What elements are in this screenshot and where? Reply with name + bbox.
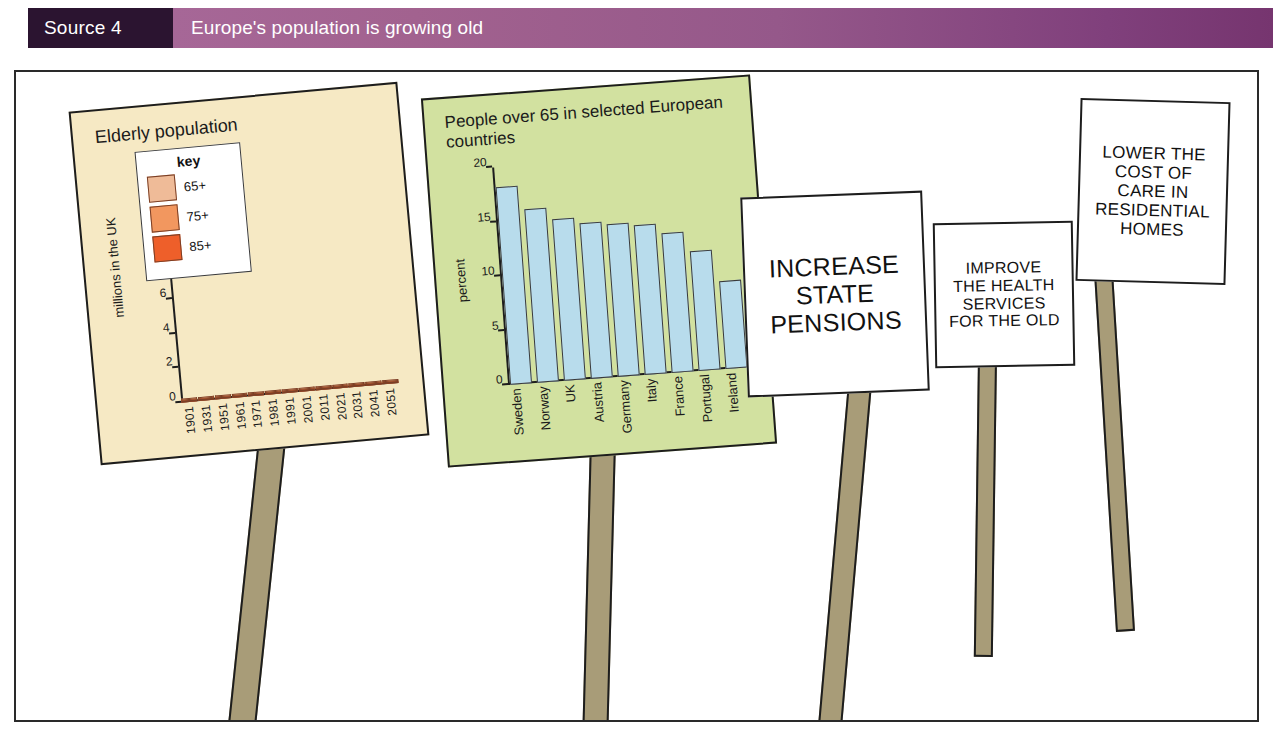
chart2-bar (690, 250, 721, 371)
placard-text-lower-cost-of-care: LOWER THE COST OF CARE IN RESIDENTIAL HO… (1094, 142, 1211, 240)
chart2-x-tick-label: Germany (616, 379, 644, 460)
chart2-y-tick-label: 15 (477, 209, 491, 224)
chart1-bar (349, 382, 365, 387)
chart2-y-tick-label: 0 (495, 372, 503, 386)
chart1-legend-entries: 65+75+85+ (138, 168, 249, 263)
chart1-legend-label: 65+ (183, 177, 206, 194)
chart1-bar-segment-85plus (349, 384, 365, 387)
chart1-y-tick-label: 4 (162, 320, 170, 335)
chart1-bar-segment-85plus (265, 392, 281, 395)
chart1-bar (265, 390, 281, 395)
chart2-x-tick-label: UK (562, 383, 590, 464)
header-banner: Source 4 Europe's population is growing … (28, 8, 1273, 48)
chart1-bar-segment-85plus (232, 395, 248, 398)
chart2-y-tick-label: 20 (473, 155, 487, 170)
placard-improve-health-services: IMPROVE THE HEALTH SERVICES FOR THE OLD (933, 221, 1076, 368)
placard-chart-people-over-65: People over 65 in selected European coun… (421, 74, 777, 467)
placard-text-increase-state-pensions: INCREASE STATE PENSIONS (768, 250, 903, 339)
chart1-bar (315, 385, 331, 390)
chart1-legend-swatch (147, 174, 177, 202)
chart1-bar (366, 380, 382, 385)
illustration-frame: Elderly population millions in the UK 02… (14, 70, 1259, 722)
chart1-y-tick-label: 0 (169, 389, 177, 404)
chart1-bar-segment-85plus (299, 389, 315, 392)
chart1-legend-label: 85+ (189, 237, 212, 254)
source-number-label: Source 4 (44, 17, 122, 39)
chart1-bar-segment-85plus (198, 398, 214, 401)
chart1-y-tick-label: 2 (165, 355, 173, 370)
chart1-bar (231, 393, 247, 398)
chart1-bar (198, 396, 214, 401)
chart1-bar-segment-85plus (332, 385, 348, 388)
source-title-banner: Europe's population is growing old (173, 8, 1273, 48)
chart1-bar (332, 383, 348, 388)
chart1-bar (298, 387, 314, 392)
source-number-box: Source 4 (28, 8, 173, 48)
chart1-title: Elderly population (94, 114, 238, 148)
chart2-y-axis-label: percent (448, 205, 474, 356)
chart2-x-tick-label: Sweden (508, 387, 536, 468)
chart2-x-tick-label: Italy (643, 377, 671, 458)
chart1-bar (248, 391, 264, 396)
placard-increase-state-pensions: INCREASE STATE PENSIONS (740, 191, 930, 398)
chart1-y-tick-label: 6 (159, 286, 167, 301)
chart1-bar (282, 388, 298, 393)
chart1-legend-swatch (152, 234, 182, 262)
chart1-bar-segment-85plus (282, 390, 298, 393)
placard-pole-lower-cost-of-care (1094, 271, 1135, 631)
chart2-x-tick-labels: SwedenNorwayUKAustriaGermanyItalyFranceP… (508, 372, 751, 469)
chart2-bar-group (494, 150, 747, 385)
chart1-x-tick-labels: 1901193119511961197119811991200120112021… (182, 387, 405, 476)
chart1-legend-label: 75+ (186, 207, 209, 224)
chart1-legend-entry: 65+ (147, 168, 244, 203)
chart2-x-tick-label: France (670, 375, 698, 456)
chart2-bar (661, 232, 693, 373)
placard-pole-improve-health-services (974, 357, 997, 657)
chart1-legend-entry: 75+ (150, 198, 247, 233)
placard-lower-cost-of-care: LOWER THE COST OF CARE IN RESIDENTIAL HO… (1075, 98, 1230, 285)
placard-chart-elderly-population: Elderly population millions in the UK 02… (69, 82, 430, 465)
chart1-legend: key 65+75+85+ (135, 142, 252, 281)
chart2-title: People over 65 in selected European coun… (444, 91, 752, 153)
page-title: Europe's population is growing old (191, 17, 483, 39)
chart2-y-tick-label: 10 (481, 264, 495, 279)
chart2-x-tick-label: Portugal (697, 373, 725, 454)
chart1-bar-segment-85plus (383, 381, 399, 384)
placard-text-improve-health-services: IMPROVE THE HEALTH SERVICES FOR THE OLD (948, 258, 1060, 332)
chart1-bar (181, 397, 197, 402)
chart1-bar (215, 394, 231, 399)
chart1-bar-segment-85plus (248, 393, 264, 396)
chart1-bar-segment-85plus (215, 396, 231, 399)
chart1-bar (382, 379, 398, 384)
chart2-y-tick-label: 5 (492, 318, 500, 332)
source-figure-page: Source 4 Europe's population is growing … (0, 0, 1273, 738)
chart1-legend-entry: 85+ (152, 228, 249, 263)
chart1-bar-segment-85plus (181, 399, 197, 402)
chart2-plot-area: 05101520 (492, 150, 745, 385)
chart2-x-tick-label: Austria (589, 381, 617, 462)
placard-pole-increase-state-pensions (818, 371, 873, 722)
chart1-y-axis-label: millions in the UK (101, 192, 130, 343)
chart1-legend-swatch (150, 204, 180, 232)
chart1-bar-segment-85plus (315, 387, 331, 390)
chart1-bar-segment-85plus (366, 382, 382, 385)
chart2-x-tick-label: Norway (535, 385, 563, 466)
